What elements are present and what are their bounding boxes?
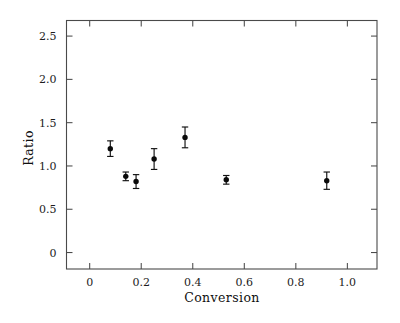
x-axis-title: Conversion	[184, 290, 260, 305]
x-tick-label: 0.4	[184, 276, 202, 289]
x-tick-label: 1.0	[339, 276, 357, 289]
y-tick-label: 0.5	[39, 203, 57, 216]
y-axis-title: Ratio	[21, 130, 36, 166]
y-tick-label: 1.0	[39, 160, 57, 173]
scatter-plot: 00.20.40.60.81.0 00.51.01.52.02.5 Conver…	[0, 0, 400, 323]
chart-figure: 00.20.40.60.81.0 00.51.01.52.02.5 Conver…	[0, 0, 400, 323]
x-tick-label: 0.6	[236, 276, 254, 289]
x-tick-label: 0.2	[132, 276, 150, 289]
y-tick-label: 0	[50, 247, 57, 260]
x-tick-label: 0	[86, 276, 93, 289]
y-tick-label: 2.5	[39, 30, 57, 43]
y-tick-label: 1.5	[39, 117, 57, 130]
plot-background	[0, 0, 400, 323]
y-tick-label: 2.0	[39, 73, 57, 86]
x-tick-label: 0.8	[287, 276, 305, 289]
